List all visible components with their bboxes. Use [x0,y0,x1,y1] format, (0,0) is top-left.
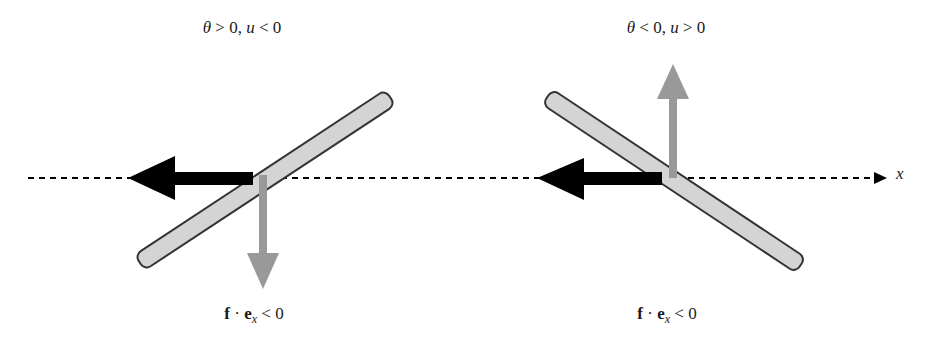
u-relation: < 0 [255,18,282,37]
left-force-arrowhead-icon [128,156,175,200]
u-symbol: u [246,18,255,37]
x-axis-label: x [896,164,904,184]
u-symbol: u [670,18,679,37]
right-panel [537,64,806,273]
force-relation: < 0 [257,304,284,323]
right-bottom-label: f · ex < 0 [637,304,696,327]
u-relation: > 0 [679,18,706,37]
right-force-arrow-shaft [580,172,662,185]
left-velocity-arrowhead-icon [247,253,279,289]
right-velocity-arrow-shaft [669,96,677,178]
right-velocity-arrowhead-icon [657,64,689,99]
right-top-label: θ < 0, u > 0 [627,18,706,38]
theta-relation: > 0, [211,18,246,37]
left-force-arrow-shaft [170,172,253,185]
x-axis-arrowhead-icon [874,172,887,184]
left-top-label: θ > 0, u < 0 [203,18,282,38]
left-panel [128,90,395,289]
force-relation: < 0 [670,304,697,323]
diagram-canvas: θ > 0, u < 0 f · ex < 0 θ < 0, u > 0 f ·… [0,0,929,343]
right-force-arrowhead-icon [537,158,584,200]
theta-relation: < 0, [635,18,670,37]
dot-operator: · [643,304,657,323]
left-bottom-label: f · ex < 0 [224,304,283,327]
dot-operator: · [230,304,244,323]
left-velocity-arrow-shaft [259,175,267,255]
diagram-svg [0,0,929,343]
